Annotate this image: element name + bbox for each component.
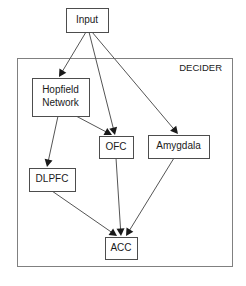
node-input-label: Input <box>76 14 98 25</box>
edge-line <box>129 158 174 231</box>
edge-ofc-to-acc <box>116 158 125 236</box>
diagram-root: DECIDER InputHopfieldNetworkOFCAmygdalaD… <box>0 0 246 286</box>
edge-dlpfc-to-acc <box>52 191 117 236</box>
node-amygdala-label: Amygdala <box>156 140 201 151</box>
edge-line <box>52 191 112 232</box>
node-acc-label: ACC <box>110 242 131 253</box>
edge-amygdala-to-acc <box>126 158 174 236</box>
edge-input-to-ofc <box>89 32 117 135</box>
edge-line <box>76 116 107 132</box>
node-amygdala[interactable]: Amygdala <box>149 136 210 159</box>
node-hopfield-label: Hopfield <box>42 84 79 95</box>
edge-input-to-amygdala <box>92 32 178 134</box>
edge-arrowhead <box>126 228 133 236</box>
node-input[interactable]: Input <box>67 9 109 33</box>
edge-arrowhead <box>45 159 53 167</box>
node-hopfield[interactable]: HopfieldNetwork <box>33 79 90 117</box>
edge-hopfield-to-ofc <box>76 116 112 135</box>
node-dlpfc-label: DLPFC <box>36 173 69 184</box>
edge-input-to-hopfield <box>59 32 86 77</box>
edge-arrowhead <box>109 228 117 236</box>
edge-group <box>45 32 178 236</box>
node-hopfield-label: Network <box>42 97 80 108</box>
edge-line <box>48 116 58 161</box>
decider-container-label: DECIDER <box>179 62 222 73</box>
node-ofc-label: OFC <box>105 141 126 152</box>
node-group: InputHopfieldNetworkOFCAmygdalaDLPFCACC <box>30 9 210 260</box>
edge-line <box>116 158 121 230</box>
edge-arrowhead <box>117 228 125 236</box>
node-ofc[interactable]: OFC <box>100 137 134 159</box>
edge-line <box>92 32 174 129</box>
edge-arrowhead <box>59 69 66 77</box>
node-acc[interactable]: ACC <box>106 238 138 260</box>
edge-hopfield-to-dlpfc <box>45 116 58 167</box>
edge-line <box>62 32 86 72</box>
edge-arrowhead <box>170 126 178 134</box>
edge-line <box>89 32 113 129</box>
diagram-canvas: DECIDER InputHopfieldNetworkOFCAmygdalaD… <box>0 0 246 286</box>
node-dlpfc[interactable]: DLPFC <box>30 169 76 192</box>
